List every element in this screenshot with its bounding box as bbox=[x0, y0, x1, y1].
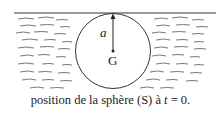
center-label: G bbox=[108, 53, 117, 68]
fluid-hatching-left bbox=[16, 17, 72, 88]
caption-suffix: = 0. bbox=[168, 93, 191, 107]
caption: position de la sphère (S) à t = 0. bbox=[0, 93, 221, 108]
radius-label: a bbox=[100, 25, 107, 40]
caption-text: position de la sphère (S) à bbox=[31, 93, 164, 107]
